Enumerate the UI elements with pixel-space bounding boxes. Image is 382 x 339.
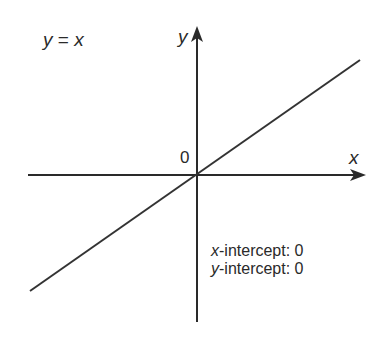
y-intercept-var: y [211, 260, 219, 277]
x-intercept-line: x-intercept: 0 [211, 242, 303, 260]
x-intercept-var: x [211, 242, 219, 259]
y-axis-label: y [178, 27, 188, 46]
intercepts-annotation: x-intercept: 0 y-intercept: 0 [211, 242, 303, 278]
origin-label: 0 [180, 149, 189, 166]
title-rhs: x [74, 29, 84, 50]
y-intercept-line: y-intercept: 0 [211, 260, 303, 278]
x-intercept-text: -intercept: 0 [219, 242, 303, 259]
chart-figure: y = x y x 0 x-intercept: 0 y-intercept: … [0, 0, 382, 339]
chart-canvas [0, 0, 382, 339]
x-axis-label: x [349, 148, 359, 167]
title-lhs: y [43, 29, 53, 50]
chart-title: y = x [43, 30, 84, 49]
title-equals: = [53, 29, 75, 50]
y-intercept-text: -intercept: 0 [219, 260, 303, 277]
